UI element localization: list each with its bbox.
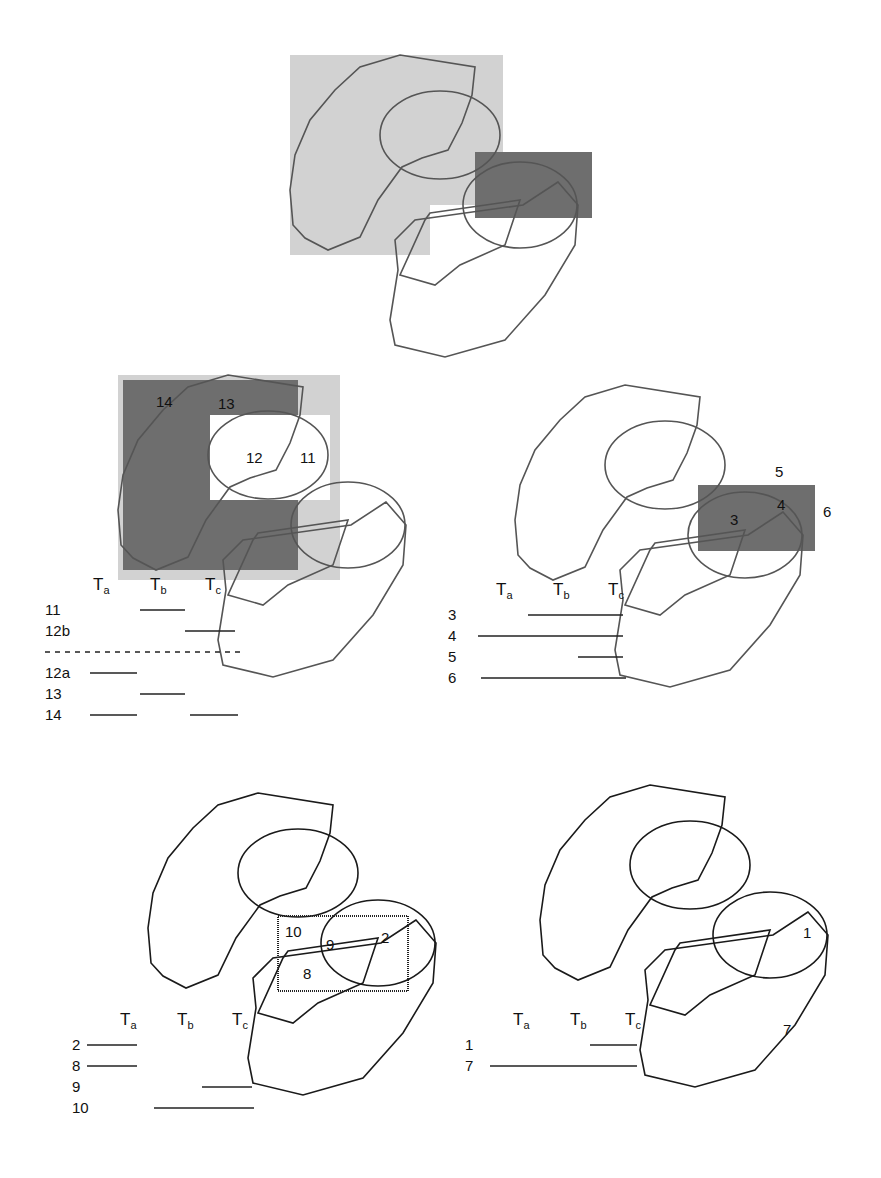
- base-shapes: [540, 785, 828, 1087]
- panel-middle-right: 5643: [515, 385, 831, 687]
- region-label: 6: [823, 503, 831, 520]
- timeline-header: Tb: [570, 1010, 587, 1031]
- timeline-row-label: 11: [45, 601, 61, 618]
- timeline-bottom-right: TaTbTc17: [465, 1010, 641, 1074]
- timeline-header-subscript: a: [506, 589, 513, 601]
- timeline-row-label: 10: [72, 1099, 89, 1116]
- timeline-header: Ta: [93, 575, 110, 596]
- diagram-figure: 1413121156431092817 TaTbTc1112b12a1314Ta…: [0, 0, 881, 1178]
- timeline-header: Tc: [625, 1010, 641, 1031]
- timeline-row-label: 6: [448, 669, 456, 686]
- timeline-header: Tb: [553, 580, 570, 601]
- region-label: 12: [246, 449, 263, 466]
- timeline-header-subscript: a: [103, 584, 110, 596]
- region-label: 4: [777, 496, 785, 513]
- timeline-row-label: 12a: [45, 664, 71, 681]
- base-shapes: [148, 793, 436, 1095]
- timeline-header-subscript: b: [160, 584, 166, 596]
- timeline-middle-right: TaTbTc3456: [448, 580, 626, 686]
- timeline-header-subscript: a: [523, 1019, 530, 1031]
- timeline-row-label: 5: [448, 648, 456, 665]
- timelines-layer: TaTbTc1112b12a1314TaTbTc3456TaTbTc28910T…: [45, 575, 641, 1116]
- timeline-row-label: 3: [448, 606, 456, 623]
- region-label: 8: [303, 965, 311, 982]
- timeline-row-label: 8: [72, 1057, 80, 1074]
- timeline-row-label: 2: [72, 1036, 80, 1053]
- timeline-header-subscript: b: [187, 1019, 193, 1031]
- timeline-header-subscript: c: [635, 1019, 641, 1031]
- timeline-row-label: 9: [72, 1078, 80, 1095]
- panel-middle-left: 14131211: [118, 375, 406, 677]
- region-label: 5: [775, 463, 783, 480]
- timeline-middle-left: TaTbTc1112b12a1314: [45, 575, 245, 723]
- timeline-header-subscript: a: [130, 1019, 137, 1031]
- panel-top: [290, 55, 592, 357]
- timeline-bottom-left: TaTbTc28910: [72, 1010, 254, 1116]
- timeline-header: Tc: [232, 1010, 248, 1031]
- timeline-row-label: 14: [45, 706, 62, 723]
- panels-layer: 1413121156431092817: [118, 55, 831, 1095]
- timeline-row-label: 1: [465, 1036, 473, 1053]
- region-label: 1: [803, 924, 811, 941]
- timeline-row-label: 4: [448, 627, 456, 644]
- timeline-row-label: 13: [45, 685, 62, 702]
- timeline-header-subscript: c: [215, 584, 221, 596]
- timeline-header: Tb: [177, 1010, 194, 1031]
- panel-bottom-right: 17: [540, 785, 828, 1087]
- panel-bottom-left: 10928: [148, 793, 436, 1095]
- shade-rect: [475, 152, 592, 218]
- timeline-header-subscript: b: [580, 1019, 586, 1031]
- timeline-header: Ta: [513, 1010, 530, 1031]
- timeline-row-label: 7: [465, 1057, 473, 1074]
- region-label: 2: [381, 929, 389, 946]
- region-label: 13: [218, 395, 235, 412]
- timeline-header-subscript: b: [563, 589, 569, 601]
- region-label: 14: [156, 393, 173, 410]
- region-label: 11: [300, 449, 316, 466]
- region-label: 9: [326, 936, 334, 953]
- timeline-header: Ta: [496, 580, 513, 601]
- region-label: 7: [783, 1021, 791, 1038]
- region-label: 10: [285, 923, 302, 940]
- timeline-row-label: 12b: [45, 622, 70, 639]
- timeline-header-subscript: c: [242, 1019, 248, 1031]
- timeline-header: Ta: [120, 1010, 137, 1031]
- timeline-header-subscript: c: [618, 589, 624, 601]
- region-label: 3: [730, 511, 738, 528]
